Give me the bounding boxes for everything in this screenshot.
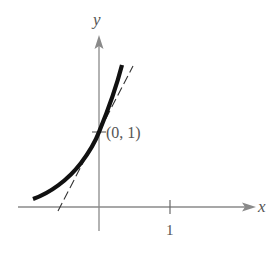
point-label: (0, 1) bbox=[106, 124, 141, 142]
y-axis-label: y bbox=[91, 10, 101, 29]
x-tick-label-1: 1 bbox=[166, 222, 174, 238]
function-graph: y x 1 (0, 1) bbox=[0, 0, 268, 255]
x-axis-label: x bbox=[257, 197, 266, 216]
